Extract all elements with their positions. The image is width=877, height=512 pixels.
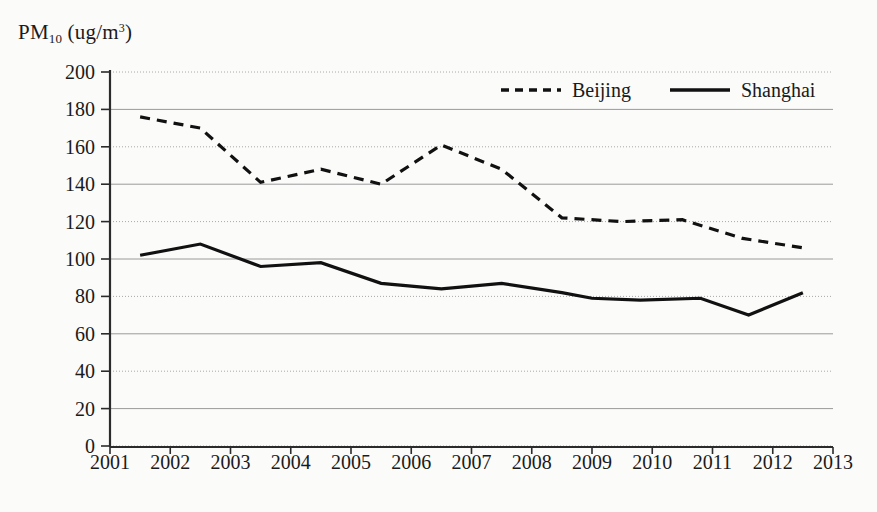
gridlines	[110, 72, 833, 446]
y-tick-label: 140	[35, 174, 95, 194]
y-tick-label: 200	[35, 62, 95, 82]
y-tick-label: 60	[35, 324, 95, 344]
legend-label-shanghai: Shanghai	[741, 80, 815, 100]
x-tick-label: 2013	[798, 452, 868, 472]
dashed-line-swatch-icon	[500, 83, 562, 97]
y-tick-label: 40	[35, 361, 95, 381]
y-tick-label: 120	[35, 212, 95, 232]
y-tick-label: 160	[35, 137, 95, 157]
y-axis-tick-marks	[101, 72, 110, 446]
plot-area	[0, 0, 877, 512]
legend-label-beijing: Beijing	[572, 80, 631, 100]
legend-entry-shanghai: Shanghai	[669, 80, 815, 100]
y-tick-label: 180	[35, 99, 95, 119]
chart-figure: PM10 (ug/m3) 200180160140120100806040200…	[0, 0, 877, 512]
legend-entry-beijing: Beijing	[500, 80, 631, 100]
chart-legend: Beijing Shanghai	[500, 80, 815, 100]
y-tick-label: 20	[35, 399, 95, 419]
series-line-shanghai	[140, 244, 803, 315]
series-line-beijing	[140, 117, 803, 248]
solid-line-swatch-icon	[669, 83, 731, 97]
y-tick-label: 100	[35, 249, 95, 269]
y-tick-label: 80	[35, 286, 95, 306]
